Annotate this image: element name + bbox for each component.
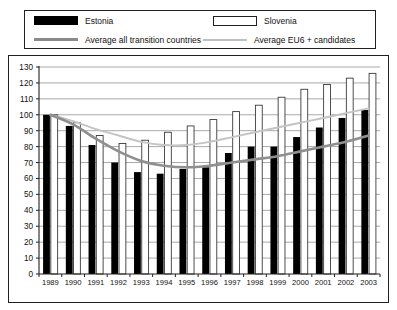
chart-screenshot: Estonia Slovenia Average all transition … [0, 0, 397, 310]
bar-estonia-1995 [179, 169, 186, 274]
chart-canvas: 0102030405060708090100110120130 19891990… [9, 56, 388, 302]
legend-label-average-eu6-candidates: Average EU6 + candidates [254, 35, 355, 45]
bar-estonia-2001 [316, 128, 323, 274]
x-axis-tick-label: 1993 [133, 278, 150, 287]
legend-item-estonia: Estonia [34, 11, 113, 30]
legend-swatch-eu6-line-icon [203, 39, 247, 41]
x-axis-ticks-group: 1989199019911992199319941995199619971998… [39, 274, 380, 287]
y-axis-tick-label: 0 [28, 270, 33, 279]
bar-slovenia-1991 [96, 135, 103, 274]
bar-estonia-1994 [157, 174, 164, 274]
bar-slovenia-1999 [278, 97, 285, 274]
bars-group [43, 73, 376, 274]
x-axis-tick-label: 1998 [247, 278, 264, 287]
y-axis-tick-label: 10 [24, 254, 34, 263]
bar-slovenia-1990 [74, 123, 81, 274]
y-axis-tick-label: 60 [24, 174, 34, 183]
bar-slovenia-2003 [369, 73, 376, 274]
x-axis-tick-label: 1995 [178, 278, 195, 287]
y-axis-tick-label: 70 [24, 159, 34, 168]
bar-estonia-1999 [270, 147, 277, 274]
legend-label-slovenia: Slovenia [264, 16, 297, 26]
bar-slovenia-1989 [51, 115, 58, 274]
chart-plot-frame: 0102030405060708090100110120130 19891990… [8, 55, 389, 303]
x-axis-tick-label: 1991 [87, 278, 104, 287]
bar-estonia-1993 [134, 172, 141, 274]
x-axis-tick-label: 1989 [42, 278, 59, 287]
legend-label-estonia: Estonia [85, 16, 113, 26]
legend-label-average-all-transition-countries: Average all transition countries [85, 35, 201, 45]
bar-slovenia-2001 [324, 85, 331, 274]
legend-swatch-estonia-icon [34, 16, 78, 25]
x-axis-tick-label: 2000 [292, 278, 309, 287]
bar-estonia-1991 [89, 145, 96, 274]
x-axis-tick-label: 1990 [65, 278, 82, 287]
bar-slovenia-2002 [346, 78, 353, 274]
legend-row-1: Estonia Slovenia [25, 11, 375, 30]
legend-item-average-eu6-candidates: Average EU6 + candidates [203, 30, 355, 49]
x-axis-tick-label: 1996 [201, 278, 218, 287]
x-axis-tick-label: 2001 [315, 278, 332, 287]
x-axis-tick-label: 1997 [224, 278, 241, 287]
legend-row-2: Average all transition countries Average… [25, 30, 375, 49]
legend-item-average-all-transition-countries: Average all transition countries [34, 30, 201, 49]
y-axis-tick-label: 110 [20, 95, 33, 104]
legend-item-slovenia: Slovenia [213, 11, 297, 30]
bar-slovenia-2000 [301, 89, 308, 274]
bar-estonia-1990 [66, 126, 73, 274]
bar-slovenia-1992 [119, 143, 126, 274]
y-axis-tick-label: 30 [24, 222, 34, 231]
y-axis-tick-label: 50 [24, 190, 34, 199]
bar-slovenia-1994 [164, 132, 171, 274]
x-axis-tick-label: 1994 [156, 278, 173, 287]
y-axis-ticks-group: 0102030405060708090100110120130 [19, 63, 39, 279]
legend-swatch-transition-line-icon [34, 38, 78, 41]
y-axis-tick-label: 80 [24, 143, 34, 152]
bar-estonia-1989 [43, 115, 50, 274]
bar-estonia-2000 [293, 137, 300, 274]
bar-estonia-1996 [202, 167, 209, 274]
x-axis-tick-label: 1999 [269, 278, 286, 287]
y-axis-tick-label: 20 [24, 238, 34, 247]
y-axis-tick-label: 120 [19, 79, 33, 88]
bar-estonia-1997 [225, 153, 232, 274]
y-axis-tick-label: 130 [19, 63, 33, 72]
y-axis-tick-label: 100 [19, 111, 33, 120]
chart-legend: Estonia Slovenia Average all transition … [24, 10, 376, 49]
bar-slovenia-1996 [210, 120, 217, 274]
x-axis-tick-label: 2003 [360, 278, 377, 287]
bar-estonia-1992 [111, 163, 118, 274]
x-axis-tick-label: 2002 [337, 278, 354, 287]
y-axis-tick-label: 90 [24, 127, 34, 136]
x-axis-tick-label: 1992 [110, 278, 127, 287]
bar-estonia-1998 [248, 147, 255, 274]
bar-slovenia-1995 [187, 126, 194, 274]
legend-swatch-slovenia-icon [213, 16, 257, 26]
y-axis-tick-label: 40 [24, 206, 34, 215]
